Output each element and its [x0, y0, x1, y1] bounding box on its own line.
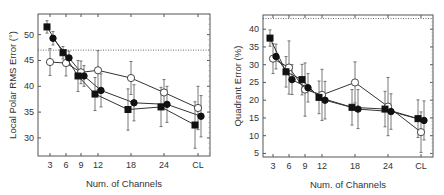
y-axis-label: Quadrant Error (%) — [232, 46, 243, 127]
marker-circle-filled — [289, 76, 295, 82]
figure: 3035404550369121824CLNum. of ChannelsLoc… — [0, 0, 444, 195]
y-tick-label: 20 — [249, 95, 259, 105]
x-tick-label: 3 — [270, 161, 275, 171]
marker-square — [415, 116, 421, 122]
x-tick-label: 24 — [383, 161, 393, 171]
marker-circle-filled — [421, 117, 427, 123]
y-tick-label: 15 — [249, 113, 259, 123]
marker-circle-filled — [355, 106, 361, 112]
x-axis-label: Num. of Channels — [310, 179, 386, 190]
x-tick-label: CL — [415, 161, 427, 171]
marker-circle-filled — [305, 85, 311, 91]
x-tick-label: 12 — [317, 161, 327, 171]
marker-square — [299, 77, 305, 83]
series-line-open-circle — [273, 59, 421, 132]
marker-square — [382, 106, 388, 112]
marker-square — [267, 35, 273, 41]
marker-circle-filled — [273, 53, 279, 59]
y-tick-label: 35 — [249, 42, 259, 52]
marker-circle-open — [351, 79, 358, 86]
y-tick-label: 10 — [249, 131, 259, 141]
marker-circle-open — [417, 129, 424, 136]
marker-square — [349, 104, 355, 110]
marker-circle-filled — [322, 97, 328, 103]
marker-square — [316, 94, 322, 100]
y-tick-label: 30 — [249, 60, 259, 70]
marker-circle-filled — [388, 108, 394, 114]
plot-frame — [263, 15, 433, 157]
x-tick-label: 6 — [286, 161, 291, 171]
y-tick-label: 5 — [254, 148, 259, 158]
marker-square — [283, 69, 289, 75]
chart-quadrant-error: 510152025303540369121824CLNum. of Channe… — [0, 0, 444, 195]
x-tick-label: 18 — [350, 161, 360, 171]
y-tick-label: 40 — [249, 24, 259, 34]
y-tick-label: 25 — [249, 77, 259, 87]
x-tick-label: 9 — [302, 161, 307, 171]
series-line-filled-circle — [276, 57, 424, 121]
